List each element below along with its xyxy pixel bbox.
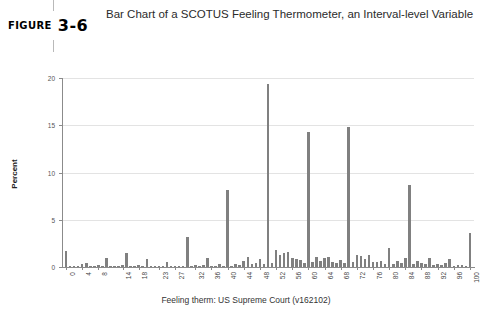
bar [364, 259, 367, 267]
x-tick-label: 23 [162, 272, 169, 279]
bar [315, 257, 318, 267]
x-tick-label: 68 [343, 272, 350, 279]
x-tick-label: 72 [359, 272, 366, 279]
x-tick-label: 27 [178, 272, 185, 279]
bar [267, 84, 270, 267]
bar [360, 256, 363, 267]
y-tick-mark [59, 267, 62, 268]
bar [448, 259, 451, 268]
bar [327, 257, 330, 267]
bar [287, 252, 290, 267]
y-tick-label: 10 [37, 169, 55, 176]
bar [347, 127, 350, 267]
x-tick-mark [66, 267, 67, 270]
figure-title: Bar Chart of a SCOTUS Feeling Thermomete… [106, 6, 476, 22]
y-tick-label: 15 [37, 122, 55, 129]
x-tick-label: 80 [392, 272, 399, 279]
bar [105, 258, 108, 267]
bar [307, 132, 310, 267]
x-tick-label: 32 [198, 272, 205, 279]
x-tick-mark [98, 267, 99, 270]
x-tick-label: 96 [456, 272, 463, 279]
crop-mark-bottom [53, 40, 54, 52]
x-tick-label: 14 [125, 272, 132, 279]
y-tick-label: 5 [37, 216, 55, 223]
bar [388, 248, 391, 267]
y-tick-mark [59, 173, 62, 174]
bar [299, 260, 302, 267]
bar [275, 250, 278, 267]
crop-mark-top [53, 0, 54, 11]
x-tick-label: 18 [141, 272, 148, 279]
bar [368, 255, 371, 267]
x-tick-mark [470, 267, 471, 270]
figure-header: FIGURE 3-6 Bar Chart of a SCOTUS Feeling… [0, 0, 492, 62]
y-tick-label: 0 [37, 264, 55, 271]
x-tick-mark [82, 267, 83, 270]
bar [206, 258, 209, 267]
bar [323, 258, 326, 267]
x-tick-mark [175, 267, 176, 270]
x-tick-mark [244, 267, 245, 270]
chart-container: Percent Feeling therm: US Supreme Court … [0, 62, 492, 317]
bar [65, 251, 68, 267]
x-tick-mark [454, 267, 455, 270]
plot-area [62, 78, 474, 267]
x-tick-label: 52 [279, 272, 286, 279]
y-tick-mark [59, 125, 62, 126]
x-tick-mark [421, 267, 422, 270]
bar [339, 260, 342, 267]
x-tick-label: 48 [263, 272, 270, 279]
bar [291, 258, 294, 267]
x-tick-label: 36 [214, 272, 221, 279]
y-axis-label: Percent [10, 159, 19, 188]
x-tick-mark [228, 267, 229, 270]
x-axis-line [62, 267, 475, 268]
bar [469, 233, 472, 267]
bar [226, 190, 229, 267]
bar [279, 255, 282, 267]
x-tick-mark [292, 267, 293, 270]
y-tick-mark [59, 220, 62, 221]
x-tick-mark [276, 267, 277, 270]
x-tick-mark [195, 267, 196, 270]
x-tick-label: 100 [473, 272, 480, 283]
x-tick-mark [405, 267, 406, 270]
x-tick-label: 56 [295, 272, 302, 279]
x-tick-mark [123, 267, 124, 270]
x-tick-label: 92 [440, 272, 447, 279]
x-tick-label: 8 [101, 272, 108, 276]
x-tick-label: 64 [327, 272, 334, 279]
x-tick-label: 84 [408, 272, 415, 279]
x-tick-mark [211, 267, 212, 270]
gridline [62, 78, 474, 79]
x-tick-mark [325, 267, 326, 270]
bar [408, 185, 411, 267]
bar [259, 259, 262, 267]
x-tick-mark [438, 267, 439, 270]
x-tick-label: 76 [376, 272, 383, 279]
bar [247, 257, 250, 267]
x-tick-mark [159, 267, 160, 270]
x-tick-mark [260, 267, 261, 270]
bar [186, 237, 189, 267]
figure-tag: FIGURE 3-6 [8, 14, 94, 36]
figure-tag-number: 3-6 [58, 16, 88, 35]
bar [283, 253, 286, 267]
figure-tag-keyword: FIGURE [8, 20, 52, 31]
x-tick-label: 88 [424, 272, 431, 279]
x-tick-label: 44 [246, 272, 253, 279]
x-tick-label: 0 [69, 272, 76, 276]
x-tick-mark [341, 267, 342, 270]
bar [295, 259, 298, 267]
bar [125, 253, 128, 267]
bar [356, 255, 359, 267]
x-axis-label: Feeling therm: US Supreme Court (v162102… [0, 295, 492, 305]
x-tick-mark [389, 267, 390, 270]
x-tick-label: 40 [230, 272, 237, 279]
x-tick-mark [139, 267, 140, 270]
x-tick-label: 60 [311, 272, 318, 279]
bar [404, 258, 407, 267]
bar [428, 258, 431, 267]
x-tick-mark [357, 267, 358, 270]
